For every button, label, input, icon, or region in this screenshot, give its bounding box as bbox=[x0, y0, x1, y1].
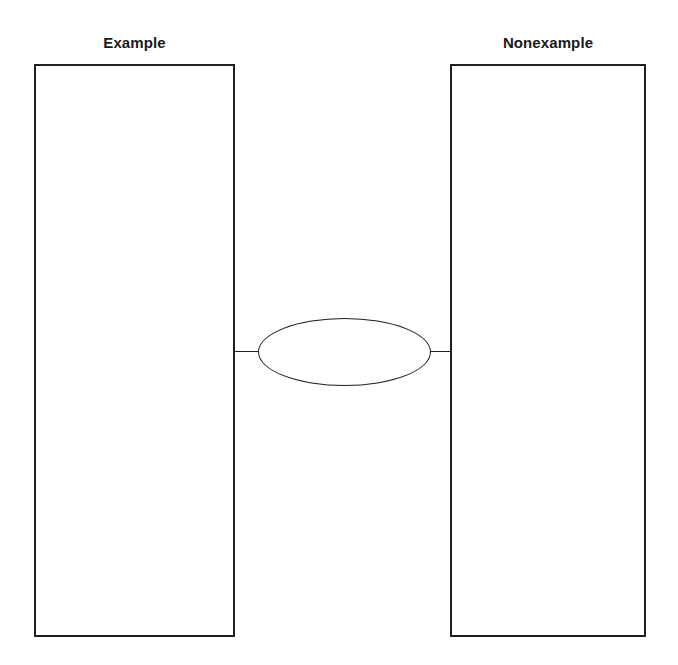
center-concept-ellipse[interactable] bbox=[258, 318, 431, 386]
nonexample-column-heading: Nonexample bbox=[450, 34, 646, 52]
left-connector-line bbox=[235, 351, 260, 352]
right-connector-line bbox=[429, 351, 451, 352]
nonexample-column-box[interactable] bbox=[450, 64, 646, 637]
example-column-heading: Example bbox=[34, 34, 235, 52]
organizer-canvas: Example Nonexample bbox=[0, 0, 678, 665]
example-column-box[interactable] bbox=[34, 64, 235, 637]
